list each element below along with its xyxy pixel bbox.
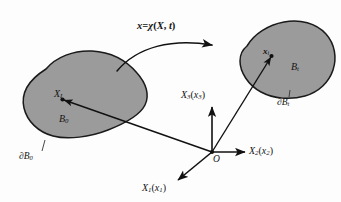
reference-boundary-subscript: 0 <box>30 154 33 161</box>
axis-3-paren-close: ) <box>202 89 205 100</box>
reference-boundary-label: ∂B0 <box>19 152 33 162</box>
reference-boundary-leader <box>42 140 45 151</box>
current-point-marker <box>269 54 273 58</box>
reference-body-label: B0 <box>59 114 69 124</box>
current-point-subscript: i <box>268 50 270 56</box>
current-boundary-subscript: t <box>288 100 290 107</box>
current-point-label: xi <box>263 47 269 56</box>
axis-1-line <box>178 152 212 180</box>
map-comma: , <box>164 20 167 31</box>
deformation-map-label: x=χ(X, t) <box>137 21 175 32</box>
reference-point-label: XI <box>54 89 62 99</box>
current-body-label: Bt <box>291 62 299 72</box>
axis-1-label: X1(x1) <box>142 183 166 193</box>
origin-label: O <box>213 155 220 165</box>
axis-2-paren-close: ) <box>270 145 273 156</box>
reference-boundary-symbol: ∂B <box>19 151 30 161</box>
axis-3-label: X3(x3) <box>181 90 205 100</box>
map-arg-X: X <box>157 20 164 31</box>
current-body-shape <box>240 21 335 98</box>
current-boundary-label: ∂Bt <box>277 98 289 108</box>
reference-body-shape <box>23 51 147 138</box>
reference-point-subscript: I <box>60 92 62 99</box>
map-paren-close: ) <box>172 20 176 31</box>
axis-1-paren-close: ) <box>163 182 166 193</box>
axis-2-label: X2(x2) <box>249 146 273 156</box>
reference-body-subscript: 0 <box>65 117 68 124</box>
deformation-diagram: x=χ(X, t) XI B0 ∂B0 xi Bt ∂Bt X3(x3) X2(… <box>0 0 341 202</box>
current-body-subscript: t <box>297 65 299 72</box>
current-boundary-symbol: ∂B <box>277 97 288 107</box>
